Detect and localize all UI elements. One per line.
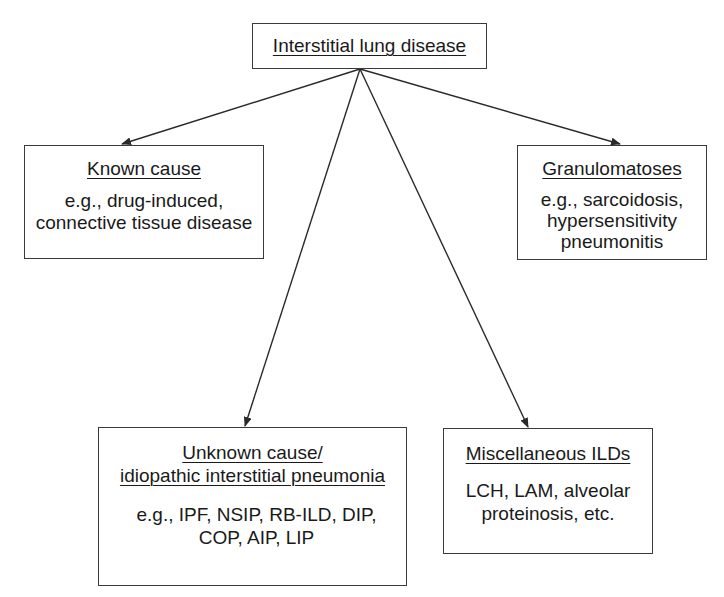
arrow-root-to-granulomatoses: [360, 69, 620, 144]
node-interstitial-lung-disease: Interstitial lung disease: [252, 23, 487, 69]
arrow-root-to-known: [122, 69, 360, 144]
node-title: Interstitial lung disease: [253, 34, 486, 57]
node-known-cause: Known cause e.g., drug-induced, connecti…: [24, 145, 264, 259]
node-examples: e.g., drug-induced, connective tissue di…: [25, 190, 263, 234]
node-title: Known cause: [25, 157, 263, 180]
node-examples: LCH, LAM, alveolar proteinosis, etc.: [444, 479, 652, 525]
ild-classification-diagram: Interstitial lung disease Known cause e.…: [0, 0, 724, 597]
node-miscellaneous-ilds: Miscellaneous ILDs LCH, LAM, alveolar pr…: [443, 428, 653, 554]
node-title-line2: idiopathic interstitial pneumonia: [99, 464, 406, 487]
node-granulomatoses: Granulomatoses e.g., sarcoidosis, hypers…: [517, 145, 707, 260]
node-title: Granulomatoses: [518, 157, 706, 180]
node-examples: e.g., sarcoidosis, hypersensitivity pneu…: [518, 189, 706, 252]
node-examples: e.g., IPF, NSIP, RB-ILD, DIP, COP, AIP, …: [99, 503, 406, 549]
node-title-line1: Unknown cause/: [99, 441, 406, 464]
node-unknown-cause: Unknown cause/ idiopathic interstitial p…: [98, 427, 407, 586]
arrow-root-to-misc: [360, 69, 528, 427]
node-title: Miscellaneous ILDs: [444, 442, 652, 465]
